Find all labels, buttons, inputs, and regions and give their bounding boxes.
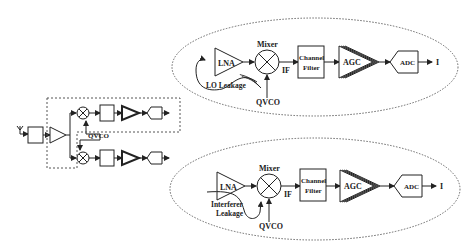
overview-qvco-label: QVCO (88, 132, 110, 140)
qvco-label: QVCO (256, 98, 280, 107)
output-label: I (436, 58, 439, 67)
receiver-diagram: QVCO LNA Mixer IF Channel Filter AGC ADC… (0, 0, 475, 250)
filter-label: Channel (301, 177, 326, 185)
filter-label: Channel (299, 54, 324, 62)
qvco-label: QVCO (259, 222, 283, 231)
channel-filter-block (300, 169, 326, 201)
bottom-detail: LNA Mixer IF Channel Filter AGC ADC I In… (170, 138, 460, 240)
lna-label: LNA (218, 59, 235, 68)
agc-label: AGC (343, 58, 361, 67)
lna-label: LNA (220, 183, 237, 192)
top-detail: LNA Mixer IF Channel Filter AGC ADC I LO… (172, 18, 458, 116)
output-label: I (440, 182, 443, 191)
if-label: IF (284, 190, 292, 199)
channel-filter-block (298, 46, 324, 78)
leakage-label: Leakage (216, 209, 244, 218)
filter-label: Filter (303, 64, 320, 72)
i-path (77, 105, 169, 121)
q-path (77, 150, 169, 166)
lna-block (50, 127, 66, 143)
adc-label: ADC (404, 183, 419, 191)
if-label: IF (282, 66, 290, 75)
agc-label: AGC (344, 182, 362, 191)
bpf-block (28, 127, 43, 143)
mixer-label: Mixer (257, 40, 278, 49)
adc-label: ADC (400, 59, 415, 67)
filter-label: Filter (305, 187, 322, 195)
leakage-label: Interferer (211, 200, 244, 209)
mixer-label: Mixer (259, 164, 280, 173)
antenna-icon (17, 126, 28, 134)
leakage-label: LO Leakage (206, 81, 246, 90)
overview-block: QVCO (17, 98, 180, 168)
